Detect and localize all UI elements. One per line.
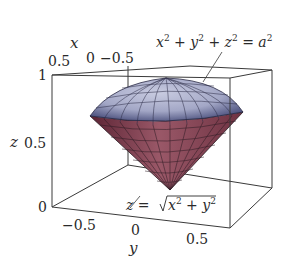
y-tick: −0.5 (62, 217, 96, 233)
x-tick: 0 (86, 50, 95, 66)
z-tick: 0.5 (24, 135, 46, 151)
x-tick: 0.5 (48, 53, 70, 69)
cone-equation: z = x2 + y2 (125, 196, 216, 213)
z-axis-label: z (9, 133, 18, 151)
svg-text:z =: z = (125, 197, 150, 213)
cone-surface (90, 112, 243, 190)
plot-3d: x 0.5 0 −0.5 z 0 0.5 1 −0.5 0 0.5 y x2 +… (0, 0, 293, 277)
z-tick: 1 (38, 67, 47, 83)
y-axis-label: y (128, 239, 138, 257)
z-axis: z 0 0.5 1 (9, 67, 47, 215)
sphere-equation: x2 + y2 + z2 = a2 (156, 33, 272, 50)
z-tick: 0 (38, 199, 47, 215)
x-tick: −0.5 (100, 50, 134, 66)
x-axis: x 0.5 0 −0.5 (48, 34, 134, 69)
svg-text:x2 + y2: x2 + y2 (168, 196, 216, 213)
x-axis-label: x (70, 34, 79, 52)
y-tick: 0 (131, 222, 140, 238)
y-tick: 0.5 (186, 231, 208, 247)
